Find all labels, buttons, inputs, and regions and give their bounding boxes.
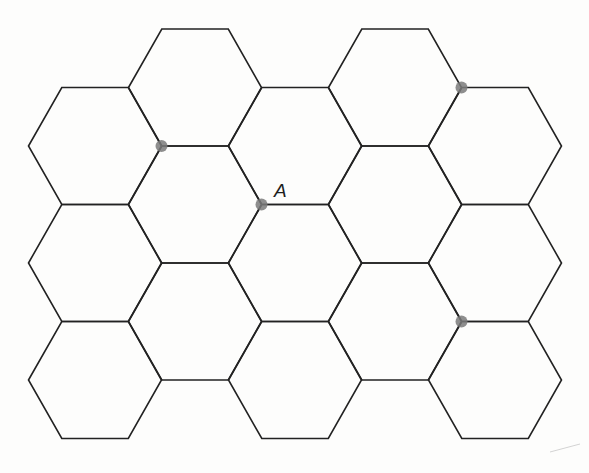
hexagon-cell-c4-r1 [429, 205, 562, 322]
hexagon-cell-c3-r0 [329, 29, 462, 146]
hexagon-cell-c3-r2 [329, 263, 462, 380]
hexagon-cell-c4-r0 [429, 88, 562, 205]
hexagon-cell-c1-r2 [129, 263, 262, 380]
hexagon-cell-c0-r0 [29, 88, 162, 205]
hexagon-cell-c4-r2 [429, 322, 562, 439]
hexagon-cell-c1-r1 [129, 146, 262, 263]
marked-vertex-3-dot [456, 316, 468, 328]
hexagon-cell-c0-r2 [29, 322, 162, 439]
hexagon-cell-c3-r1 [329, 146, 462, 263]
point-label-a: A [273, 180, 287, 201]
marked-vertex-2-dot [456, 82, 468, 94]
hexagon-cells [29, 29, 562, 439]
hexagon-cell-c2-r0 [229, 88, 362, 205]
hexagon-cell-c2-r1 [229, 205, 362, 322]
hexagon-cell-c0-r1 [29, 205, 162, 322]
hexagon-grid: A [0, 0, 589, 473]
hexagon-cell-c2-r2 [229, 322, 362, 439]
marked-vertex-1-dot [156, 140, 168, 152]
hexagon-cell-c1-r0 [129, 29, 262, 146]
scan-artifact-line [550, 444, 580, 452]
hex-lattice-figure: A [0, 0, 589, 473]
marked-vertex-a-dot [256, 199, 268, 211]
